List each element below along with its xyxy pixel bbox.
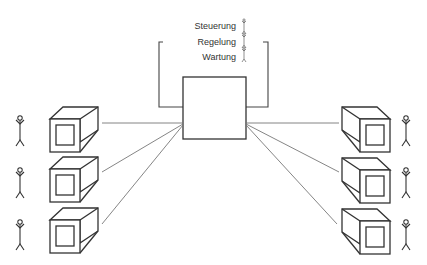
terminal-right-3-icon: [342, 209, 390, 254]
user-right-3-icon: [402, 220, 410, 250]
role-label-regelung: Regelung: [166, 37, 236, 47]
role-label-steuerung: Steuerung: [166, 21, 236, 31]
user-left-3-icon: [16, 220, 24, 250]
central-unit-box: [183, 77, 246, 139]
operator-stack-icon: [242, 19, 246, 62]
terminal-right-1-icon: [342, 107, 390, 152]
user-left-1-icon: [16, 116, 24, 146]
terminal-left-3-icon: [50, 208, 98, 253]
user-right-1-icon: [402, 116, 410, 146]
user-right-2-icon: [402, 168, 410, 198]
user-left-2-icon: [16, 168, 24, 198]
terminal-left-1-icon: [50, 107, 98, 152]
terminal-left-2-icon: [50, 157, 98, 202]
terminal-right-2-icon: [342, 158, 390, 203]
role-label-wartung: Wartung: [166, 52, 236, 62]
